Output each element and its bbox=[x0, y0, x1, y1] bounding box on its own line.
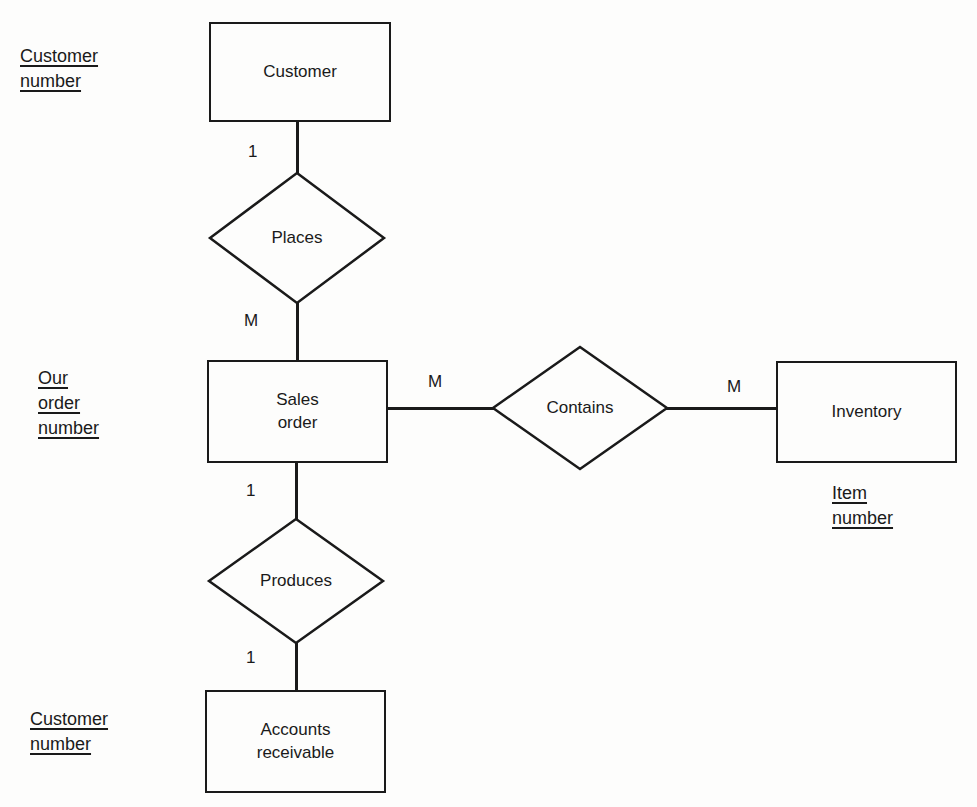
er-diagram-canvas: Customer Sales order Inventory Accounts … bbox=[0, 0, 977, 807]
cardinality-produces-accounts-receivable: 1 bbox=[246, 648, 255, 668]
cardinality-places-sales-order: M bbox=[244, 311, 258, 331]
entity-accounts-receivable-label: Accounts receivable bbox=[257, 719, 335, 765]
relationship-places[interactable]: Places bbox=[207, 170, 387, 306]
cardinality-customer-places: 1 bbox=[248, 142, 257, 162]
relationship-places-label: Places bbox=[207, 170, 387, 306]
key-attribute-sales-order: Our order number bbox=[38, 366, 99, 441]
relationship-produces-label: Produces bbox=[206, 516, 386, 646]
cardinality-sales-order-contains: M bbox=[428, 372, 442, 392]
cardinality-sales-order-produces: 1 bbox=[246, 481, 255, 501]
key-attribute-inventory: Item number bbox=[832, 481, 893, 531]
relationship-contains-label: Contains bbox=[490, 344, 670, 472]
entity-accounts-receivable[interactable]: Accounts receivable bbox=[205, 690, 386, 793]
key-attribute-sales-order-line-3: number bbox=[38, 416, 99, 441]
key-attribute-accounts-receivable: Customer number bbox=[30, 707, 108, 757]
relationship-contains[interactable]: Contains bbox=[490, 344, 670, 472]
entity-sales-order[interactable]: Sales order bbox=[207, 360, 388, 463]
entity-customer[interactable]: Customer bbox=[209, 22, 391, 122]
entity-sales-order-label: Sales order bbox=[276, 389, 319, 435]
key-attribute-accounts-receivable-line-2: number bbox=[30, 732, 91, 757]
key-attribute-customer-line-1: Customer bbox=[20, 44, 98, 69]
key-attribute-inventory-line-1: Item bbox=[832, 481, 867, 506]
connector-sales-order-contains bbox=[386, 407, 494, 410]
connector-customer-places bbox=[296, 120, 299, 174]
entity-customer-label: Customer bbox=[263, 61, 337, 84]
key-attribute-accounts-receivable-line-1: Customer bbox=[30, 707, 108, 732]
relationship-produces[interactable]: Produces bbox=[206, 516, 386, 646]
entity-inventory[interactable]: Inventory bbox=[776, 361, 957, 463]
key-attribute-sales-order-line-2: order bbox=[38, 391, 80, 416]
connector-sales-order-produces bbox=[295, 461, 298, 519]
key-attribute-sales-order-line-1: Our bbox=[38, 366, 68, 391]
connector-produces-accounts-receivable bbox=[295, 641, 298, 692]
key-attribute-customer: Customer number bbox=[20, 44, 98, 94]
key-attribute-inventory-line-2: number bbox=[832, 506, 893, 531]
connector-contains-inventory bbox=[666, 407, 778, 410]
connector-places-sales-order bbox=[296, 300, 299, 362]
cardinality-contains-inventory: M bbox=[727, 377, 741, 397]
key-attribute-customer-line-2: number bbox=[20, 69, 81, 94]
entity-inventory-label: Inventory bbox=[832, 401, 902, 424]
